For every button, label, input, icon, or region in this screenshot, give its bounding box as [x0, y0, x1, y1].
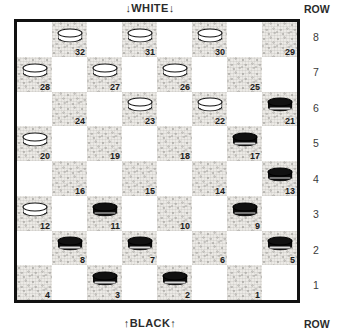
square-number-5: 5	[290, 255, 295, 265]
piece-highlight	[164, 282, 185, 284]
white-piece-32[interactable]	[57, 28, 82, 43]
white-piece-30[interactable]	[197, 28, 222, 43]
board-square-11[interactable]: 11	[87, 196, 122, 231]
white-piece-20[interactable]	[22, 133, 47, 148]
square-number-24: 24	[75, 116, 85, 126]
board-square-5[interactable]: 5	[262, 231, 297, 266]
black-piece-7[interactable]	[127, 237, 152, 252]
board-square-6[interactable]: 6	[192, 231, 227, 266]
board-square-4[interactable]: 4	[17, 265, 52, 300]
white-piece-26[interactable]	[162, 63, 187, 78]
board-square-light	[192, 265, 227, 300]
piece-top	[197, 98, 222, 107]
white-piece-22[interactable]	[197, 98, 222, 113]
piece-highlight	[269, 108, 290, 110]
board-square-14[interactable]: 14	[192, 161, 227, 196]
board-square-9[interactable]: 9	[227, 196, 262, 231]
board-square-13[interactable]: 13	[262, 161, 297, 196]
piece-top	[127, 28, 152, 37]
piece-highlight	[129, 247, 150, 249]
piece-top	[22, 202, 47, 211]
white-side-label: ↓WHITE↓	[0, 2, 300, 14]
board-square-26[interactable]: 26	[157, 57, 192, 92]
square-number-23: 23	[145, 116, 155, 126]
board-square-light	[122, 196, 157, 231]
board-square-light	[87, 22, 122, 57]
white-piece-27[interactable]	[92, 63, 117, 78]
square-number-28: 28	[40, 82, 50, 92]
square-number-25: 25	[250, 82, 260, 92]
row-label-5: 5	[304, 126, 340, 162]
black-piece-2[interactable]	[162, 272, 187, 287]
square-number-11: 11	[110, 221, 120, 231]
board-square-light	[227, 22, 262, 57]
board-square-18[interactable]: 18	[157, 126, 192, 161]
white-piece-28[interactable]	[22, 63, 47, 78]
square-number-3: 3	[115, 290, 120, 300]
square-number-30: 30	[215, 47, 225, 57]
piece-top	[232, 202, 257, 211]
board-square-19[interactable]: 19	[87, 126, 122, 161]
board-square-2[interactable]: 2	[157, 265, 192, 300]
white-piece-23[interactable]	[127, 98, 152, 113]
board-square-light	[17, 231, 52, 266]
black-piece-17[interactable]	[232, 133, 257, 148]
piece-top	[57, 237, 82, 246]
board-square-light	[87, 161, 122, 196]
board-square-32[interactable]: 32	[52, 22, 87, 57]
square-number-20: 20	[40, 151, 50, 161]
board-square-20[interactable]: 20	[17, 126, 52, 161]
square-number-26: 26	[180, 82, 190, 92]
board-square-17[interactable]: 17	[227, 126, 262, 161]
board-square-25[interactable]: 25	[227, 57, 262, 92]
board-square-27[interactable]: 27	[87, 57, 122, 92]
board-square-light	[52, 57, 87, 92]
piece-top	[127, 237, 152, 246]
black-piece-13[interactable]	[267, 167, 292, 182]
board-square-31[interactable]: 31	[122, 22, 157, 57]
board-square-8[interactable]: 8	[52, 231, 87, 266]
black-piece-5[interactable]	[267, 237, 292, 252]
board-square-light	[52, 126, 87, 161]
black-piece-11[interactable]	[92, 202, 117, 217]
board-square-12[interactable]: 12	[17, 196, 52, 231]
square-number-9: 9	[255, 221, 260, 231]
board-square-light	[17, 161, 52, 196]
board-square-28[interactable]: 28	[17, 57, 52, 92]
board-grid: 3231302928272625242322212019181716151413…	[17, 22, 297, 300]
board-square-23[interactable]: 23	[122, 92, 157, 127]
board-square-24[interactable]: 24	[52, 92, 87, 127]
piece-top	[267, 167, 292, 176]
square-number-19: 19	[110, 151, 120, 161]
black-piece-21[interactable]	[267, 98, 292, 113]
board-square-light	[17, 22, 52, 57]
square-number-1: 1	[255, 290, 260, 300]
board-square-15[interactable]: 15	[122, 161, 157, 196]
board-square-10[interactable]: 10	[157, 196, 192, 231]
row-label-1: 1	[304, 268, 340, 304]
white-piece-12[interactable]	[22, 202, 47, 217]
black-piece-3[interactable]	[92, 272, 117, 287]
square-number-29: 29	[285, 47, 295, 57]
row-label-6: 6	[304, 90, 340, 126]
board-square-7[interactable]: 7	[122, 231, 157, 266]
black-piece-9[interactable]	[232, 202, 257, 217]
piece-top	[127, 98, 152, 107]
board-square-16[interactable]: 16	[52, 161, 87, 196]
black-piece-8[interactable]	[57, 237, 82, 252]
square-number-21: 21	[285, 116, 295, 126]
board-square-3[interactable]: 3	[87, 265, 122, 300]
board-square-light	[227, 92, 262, 127]
board-square-21[interactable]: 21	[262, 92, 297, 127]
white-piece-31[interactable]	[127, 28, 152, 43]
board-square-30[interactable]: 30	[192, 22, 227, 57]
board-square-29[interactable]: 29	[262, 22, 297, 57]
board-square-light	[192, 57, 227, 92]
board-square-1[interactable]: 1	[227, 265, 262, 300]
piece-top	[22, 133, 47, 142]
row-label-3: 3	[304, 197, 340, 233]
square-number-14: 14	[215, 186, 225, 196]
board-square-light	[157, 92, 192, 127]
checkers-board[interactable]: 3231302928272625242322212019181716151413…	[14, 19, 300, 303]
board-square-22[interactable]: 22	[192, 92, 227, 127]
